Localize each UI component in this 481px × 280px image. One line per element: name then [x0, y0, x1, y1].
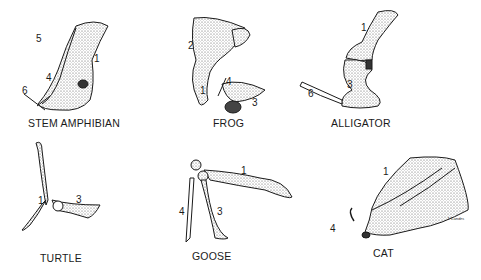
label-alligator-3: 3	[347, 79, 353, 90]
caption-alligator: ALLIGATOR	[331, 117, 391, 129]
pelvis-drawings	[0, 0, 481, 280]
label-alligator-6: 6	[308, 88, 314, 99]
label-turtle-3: 3	[76, 194, 82, 205]
caption-stem-amphibian: STEM AMPHIBIAN	[28, 117, 120, 129]
label-alligator-1: 1	[361, 22, 367, 33]
caption-turtle: TURTLE	[40, 252, 82, 264]
label-frog-1: 1	[200, 85, 206, 96]
label-goose-3: 3	[217, 206, 223, 217]
label-goose-1: 1	[241, 165, 247, 176]
artist-signature: J. Landes	[447, 216, 464, 221]
label-cat-4: 4	[330, 223, 336, 234]
label-stem-amphibian-5: 5	[36, 33, 42, 44]
label-frog-3: 3	[252, 97, 258, 108]
label-stem-amphibian-6: 6	[22, 85, 28, 96]
caption-cat: CAT	[373, 247, 394, 259]
label-stem-amphibian-1: 1	[94, 53, 100, 64]
turtle-pelvis	[22, 142, 100, 230]
label-stem-amphibian-4: 4	[46, 72, 52, 83]
caption-frog: FROG	[213, 117, 244, 129]
label-turtle-1: 1	[38, 195, 44, 206]
alligator-pelvis	[300, 11, 398, 108]
caption-goose: GOOSE	[192, 250, 232, 262]
label-frog-4: 4	[226, 76, 232, 87]
label-cat-1: 1	[383, 166, 389, 177]
goose-pelvis	[186, 160, 292, 242]
label-frog-2: 2	[188, 40, 194, 51]
cat-pelvis	[350, 157, 468, 238]
label-goose-4: 4	[179, 206, 185, 217]
